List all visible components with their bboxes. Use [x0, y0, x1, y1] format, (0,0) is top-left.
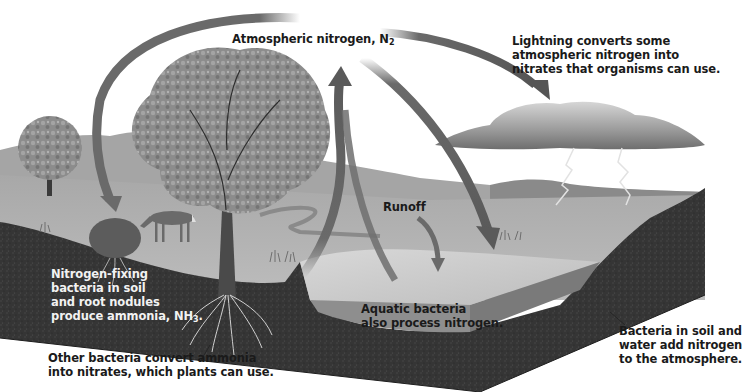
nitrogen-fixing-label: Nitrogen-fixing bacteria in soil and roo…	[51, 267, 203, 323]
aquatic-bacteria-label: Aquatic bacteria also process nitrogen.	[361, 302, 503, 330]
atmospheric-nitrogen-text: Atmospheric nitrogen, N	[232, 32, 389, 46]
soil-water-bacteria-label: Bacteria in soil and water add nitrogen …	[619, 324, 742, 366]
nitrogen-fixing-text: Nitrogen-fixing bacteria in soil and roo…	[51, 267, 193, 323]
shrub	[89, 218, 141, 258]
nitrogen-fixing-period: .	[199, 309, 203, 323]
n2-subscript: 2	[389, 38, 394, 47]
other-bacteria-label: Other bacteria convert ammonia into nitr…	[48, 351, 274, 379]
runoff-label: Runoff	[383, 200, 426, 214]
atmospheric-nitrogen-label: Atmospheric nitrogen, N2	[232, 32, 394, 46]
lightning-label: Lightning converts some atmospheric nitr…	[512, 34, 720, 76]
